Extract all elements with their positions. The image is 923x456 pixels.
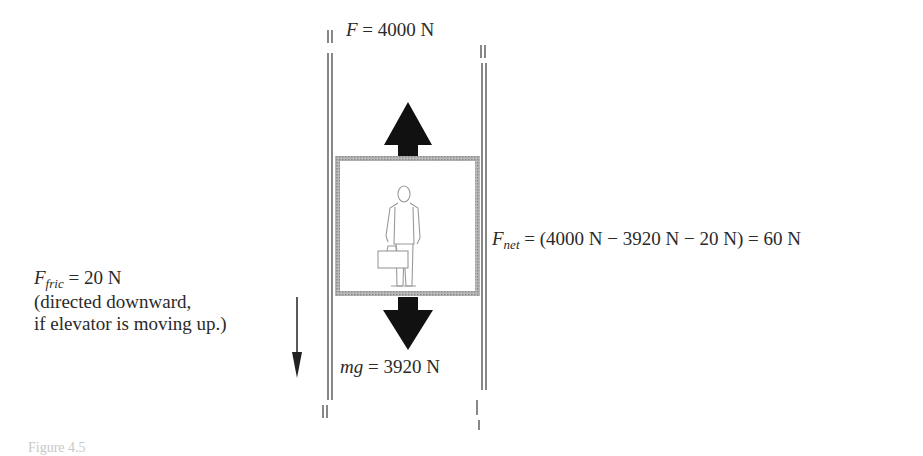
net-force-label: Fnet = (4000 N − 3920 N − 20 N) = 60 N (492, 228, 801, 252)
net-force-subscript: net (504, 237, 520, 252)
down-weight-arrow (383, 297, 433, 350)
up-force-arrow (384, 102, 432, 157)
friction-label: Ffric = 20 N (directed downward, if elev… (34, 267, 227, 335)
weight-symbol: mg (340, 356, 363, 377)
friction-value: 20 N (84, 267, 121, 288)
applied-force-symbol: F (346, 19, 358, 40)
net-force-symbol: F (492, 228, 504, 249)
friction-note-line1: (directed downward, (34, 291, 227, 313)
applied-force-label: F = 4000 N (346, 19, 434, 41)
friction-arrow (292, 297, 302, 378)
friction-equation: Ffric = 20 N (34, 267, 227, 291)
figure-caption: Figure 4.5 (28, 440, 86, 456)
friction-symbol: F (34, 267, 46, 288)
applied-force-value: 4000 N (378, 19, 434, 40)
net-force-expression: = (4000 N − 3920 N − 20 N) = 60 N (524, 228, 801, 249)
weight-label: mg = 3920 N (340, 356, 440, 378)
friction-subscript: fric (46, 276, 64, 291)
elevator-car (335, 156, 480, 296)
weight-value: 3920 N (383, 356, 439, 377)
friction-note-line2: if elevator is moving up.) (34, 313, 227, 335)
left-shaft-rail (323, 30, 332, 418)
